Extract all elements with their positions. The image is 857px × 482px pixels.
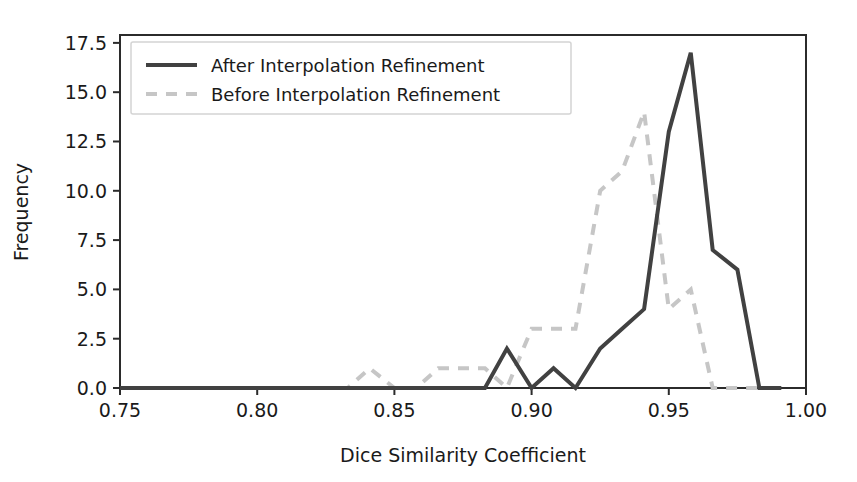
legend: After Interpolation Refinement Before In… — [131, 42, 571, 114]
series-line-before — [120, 112, 781, 388]
chart-figure: 0.02.55.07.510.012.515.017.5 0.750.800.8… — [0, 0, 857, 482]
y-tick-label: 0.0 — [77, 377, 107, 399]
legend-label-after: After Interpolation Refinement — [211, 55, 485, 76]
y-tick-label: 7.5 — [77, 229, 107, 251]
x-tick-label: 0.75 — [99, 399, 141, 421]
y-tick-label: 10.0 — [65, 180, 107, 202]
y-axis-ticks: 0.02.55.07.510.012.515.017.5 — [65, 32, 120, 399]
x-axis-title: Dice Similarity Coefficient — [340, 444, 586, 466]
y-tick-label: 17.5 — [65, 32, 107, 54]
y-axis-title: Frequency — [10, 163, 32, 261]
x-tick-label: 0.95 — [648, 399, 690, 421]
y-tick-label: 15.0 — [65, 81, 107, 103]
y-tick-label: 12.5 — [65, 130, 107, 152]
legend-label-before: Before Interpolation Refinement — [211, 84, 500, 105]
y-tick-label: 5.0 — [77, 278, 107, 300]
x-tick-label: 0.90 — [510, 399, 552, 421]
x-tick-label: 0.80 — [236, 399, 278, 421]
line-chart: 0.02.55.07.510.012.515.017.5 0.750.800.8… — [0, 0, 857, 482]
x-tick-label: 1.00 — [785, 399, 827, 421]
x-tick-label: 0.85 — [373, 399, 415, 421]
x-axis-ticks: 0.750.800.850.900.951.00 — [99, 388, 827, 421]
y-tick-label: 2.5 — [77, 328, 107, 350]
